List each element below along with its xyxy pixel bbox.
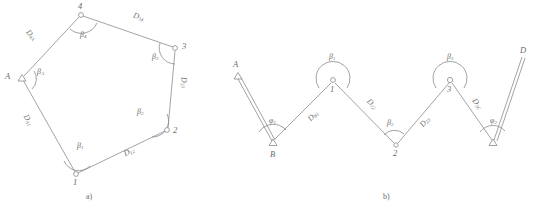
- station-label-b-panel-b: B: [270, 150, 275, 159]
- edge-c-d-outer: [494, 57, 522, 140]
- station-symbol-b-a-triangle: [234, 73, 242, 80]
- station-symbol-b-2: [394, 143, 398, 147]
- angle-arc-beta-2-b: [384, 130, 404, 135]
- panel-b-stations: [234, 73, 497, 148]
- angle-label-beta-1-b: β1: [329, 53, 335, 62]
- station-symbol-2: [165, 128, 170, 133]
- station-symbol-4: [79, 13, 84, 18]
- station-symbol-b-triangle: [269, 139, 277, 146]
- edge-a-b-outer: [238, 79, 272, 141]
- station-label-3-panel-b: 3: [447, 85, 451, 94]
- angle-label-beta-4: β4: [80, 31, 86, 40]
- angle-arc-beta-a: [32, 71, 36, 89]
- angle-label-phi-1: φ1: [269, 117, 276, 126]
- edge-3-4: [83, 16, 173, 47]
- station-symbol-c-triangle: [489, 139, 497, 146]
- panel-b-geometry: [238, 57, 525, 143]
- station-label-a-panel-a: A: [5, 72, 10, 81]
- station-label-1-panel-a: 1: [73, 178, 77, 187]
- angle-label-beta-a: βA: [37, 68, 44, 77]
- station-symbol-1: [74, 172, 79, 177]
- edge-2-3: [398, 83, 449, 143]
- edge-c-d-inner: [497, 58, 525, 141]
- station-label-3-panel-a: 3: [182, 42, 186, 51]
- angle-label-beta-2-b: β2: [387, 119, 393, 128]
- figure-root: A 1 2 3 4 D4A D34 D23 D12 DA1 βA β1 β2 β…: [0, 0, 539, 211]
- caption-panel-a: a): [86, 192, 92, 201]
- edge-3-c: [452, 83, 492, 140]
- station-label-a-panel-b: A: [233, 60, 238, 69]
- station-label-4-panel-a: 4: [78, 2, 82, 11]
- edge-1-2: [78, 131, 165, 173]
- station-label-2-panel-b: 2: [393, 149, 397, 158]
- station-label-2-panel-a: 2: [173, 126, 177, 135]
- distance-label-d23: D23: [178, 77, 188, 89]
- angle-arc-beta-3: [159, 43, 175, 64]
- angle-label-beta-1: β1: [77, 142, 83, 151]
- panel-a-geometry: [23, 16, 175, 173]
- edge-a-1: [23, 80, 75, 172]
- station-label-1-panel-b: 1: [330, 85, 334, 94]
- caption-panel-b: b): [383, 192, 390, 201]
- station-symbol-3: [173, 46, 178, 51]
- station-label-d-panel-b: D: [520, 46, 526, 55]
- station-symbol-b-3: [447, 77, 452, 82]
- edge-b-1: [275, 83, 331, 139]
- angle-label-beta-2: β2: [137, 108, 143, 117]
- angle-label-beta-3: β3: [152, 53, 158, 62]
- edge-4-a: [24, 17, 79, 76]
- angle-label-beta-3-b: β3: [447, 53, 453, 62]
- angle-arc-beta-1: [64, 161, 90, 171]
- edge-a-b-inner: [241, 78, 275, 141]
- panel-a-stations: [18, 13, 177, 177]
- angle-label-phi-2: φ2: [490, 117, 497, 126]
- station-symbol-b-1: [331, 78, 336, 83]
